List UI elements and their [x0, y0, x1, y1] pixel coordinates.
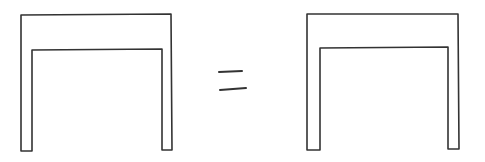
equals-sign: [219, 71, 246, 90]
right-arch-shape: [307, 14, 459, 150]
equals-bottom-line: [220, 88, 246, 90]
diagram-canvas: [0, 0, 485, 162]
equals-top-line: [219, 71, 242, 72]
left-arch-shape: [21, 14, 172, 151]
